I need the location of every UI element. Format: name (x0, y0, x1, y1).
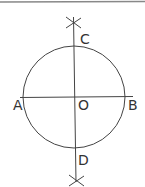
label-c: C (80, 31, 90, 47)
bottom-cross-mark-icon (69, 175, 84, 186)
label-d: D (78, 152, 89, 168)
label-b: B (128, 97, 138, 113)
line-ab (20, 97, 133, 98)
top-border-line (0, 2, 145, 3)
label-a: A (13, 97, 23, 113)
label-o: O (78, 97, 89, 113)
geometry-diagram: C A O B D (0, 0, 145, 187)
line-cd (74, 17, 77, 182)
